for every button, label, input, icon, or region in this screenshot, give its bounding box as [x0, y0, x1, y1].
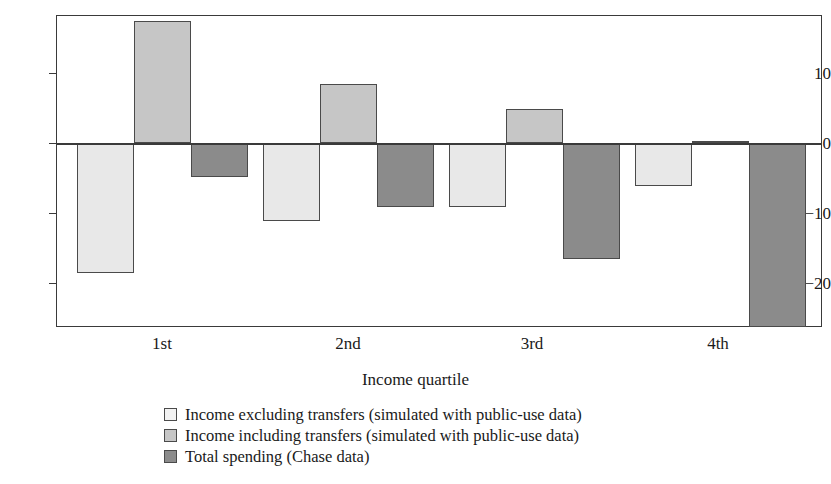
- bar-1st-series1: [77, 143, 134, 273]
- legend-item-income-excluding-transfers: Income excluding transfers (simulated wi…: [164, 404, 582, 425]
- bar-3rd-series3: [563, 143, 620, 259]
- legend-label-income-including-transfers: Income including transfers (simulated wi…: [185, 426, 579, 445]
- bar-1st-series3: [191, 143, 248, 177]
- x-axis-title: Income quartile: [0, 370, 831, 390]
- legend-swatch-income-including-transfers: [164, 429, 177, 442]
- chart-legend: Income excluding transfers (simulated wi…: [164, 404, 582, 467]
- bar-2nd-series1: [263, 143, 320, 221]
- legend-swatch-total-spending: [164, 450, 177, 463]
- x-tick-label-4th: 4th: [707, 334, 729, 354]
- legend-swatch-income-excluding-transfers: [164, 408, 177, 421]
- bar-4th-series3: [749, 143, 806, 327]
- legend-item-total-spending: Total spending (Chase data): [164, 446, 582, 467]
- plot-area: [56, 15, 822, 327]
- bar-2nd-series2: [320, 84, 377, 144]
- bar-3rd-series2: [506, 109, 563, 143]
- bar-chart-figure: 10 0 −10 −20 1st 2nd 3rd 4th Income quar…: [0, 0, 831, 484]
- x-tick-label-2nd: 2nd: [335, 334, 361, 354]
- bar-4th-series1: [635, 143, 692, 186]
- x-tick-label-1st: 1st: [152, 334, 172, 354]
- x-tick-label-3rd: 3rd: [521, 334, 544, 354]
- legend-label-income-excluding-transfers: Income excluding transfers (simulated wi…: [185, 405, 582, 424]
- legend-item-income-including-transfers: Income including transfers (simulated wi…: [164, 425, 582, 446]
- legend-label-total-spending: Total spending (Chase data): [185, 447, 369, 466]
- bar-1st-series2: [134, 21, 191, 144]
- bar-3rd-series1: [449, 143, 506, 207]
- bar-2nd-series3: [377, 143, 434, 207]
- zero-baseline: [56, 143, 822, 145]
- clipped-title-text: [100, 0, 720, 2]
